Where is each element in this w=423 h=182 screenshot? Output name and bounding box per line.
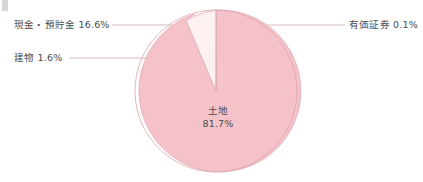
pie-label-land: 土地 81.7% <box>190 104 246 130</box>
pie-slice-land <box>139 10 301 172</box>
pie-label-cash: 現金・預貯金 16.6% <box>14 19 110 31</box>
pie-label-land-value: 81.7% <box>190 117 246 130</box>
chart-page: 現金・預貯金 16.6% 建物 1.6% 有価証券 0.1% 土地 81.7% <box>0 0 423 182</box>
pie-label-land-name: 土地 <box>190 104 246 117</box>
pie-label-securities: 有価証券 0.1% <box>349 19 418 31</box>
pie-label-building: 建物 1.6% <box>14 52 63 64</box>
